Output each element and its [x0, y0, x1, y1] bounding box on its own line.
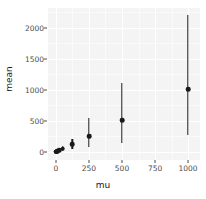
- gridline-minor-vertical: [172, 8, 173, 160]
- x-axis-tick-label: 250: [82, 164, 96, 173]
- gridline-major-vertical: [56, 8, 57, 160]
- gridline-major-vertical: [155, 8, 156, 160]
- y-axis-tick-label: 2000: [14, 23, 44, 32]
- error-bar: [88, 118, 89, 146]
- error-bar: [121, 83, 122, 143]
- error-bar: [187, 15, 188, 135]
- chart-figure: mean 0500100015002000 02505007501000 mu: [0, 0, 206, 199]
- x-axis-tick-mark: [88, 160, 89, 163]
- gridline-major-horizontal: [48, 90, 200, 91]
- x-axis-tick-label: 750: [148, 164, 162, 173]
- x-axis-title: mu: [0, 180, 206, 190]
- y-axis-tick-label: 1500: [14, 54, 44, 63]
- y-axis-tick-label: 500: [14, 116, 44, 125]
- gridline-minor-horizontal: [48, 12, 200, 13]
- x-axis-tick-label: 500: [115, 164, 129, 173]
- x-axis-tick-mark: [122, 160, 123, 163]
- data-point: [186, 87, 191, 92]
- gridline-major-horizontal: [48, 152, 200, 153]
- x-axis-tick-label: 0: [54, 164, 59, 173]
- data-point: [87, 134, 92, 139]
- y-axis-tick-label: 0: [14, 147, 44, 156]
- gridline-major-horizontal: [48, 59, 200, 60]
- gridline-major-horizontal: [48, 28, 200, 29]
- data-point: [120, 118, 125, 123]
- gridline-minor-vertical: [105, 8, 106, 160]
- x-axis-tick-label: 1000: [179, 164, 198, 173]
- y-axis-tick-mark: [44, 89, 47, 90]
- plot-panel: [48, 8, 200, 160]
- y-axis-tick-mark: [44, 27, 47, 28]
- data-point: [60, 146, 65, 151]
- y-axis-tick-mark: [44, 120, 47, 121]
- y-axis-ticks: 0500100015002000: [12, 0, 44, 199]
- gridline-minor-horizontal: [48, 136, 200, 137]
- gridline-minor-vertical: [72, 8, 73, 160]
- y-axis-tick-label: 1000: [14, 85, 44, 94]
- data-point: [70, 142, 75, 147]
- y-axis-tick-mark: [44, 151, 47, 152]
- gridline-minor-vertical: [139, 8, 140, 160]
- gridline-minor-horizontal: [48, 43, 200, 44]
- gridline-minor-horizontal: [48, 74, 200, 75]
- gridline-minor-horizontal: [48, 105, 200, 106]
- x-axis-tick-mark: [155, 160, 156, 163]
- x-axis-tick-mark: [55, 160, 56, 163]
- y-axis-tick-mark: [44, 58, 47, 59]
- x-axis-tick-mark: [188, 160, 189, 163]
